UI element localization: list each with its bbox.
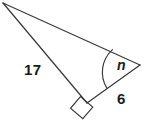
angle-label-n: n: [117, 58, 126, 72]
side-length-label-6: 6: [117, 91, 125, 106]
geometry-figure: 17 6 n: [0, 0, 148, 122]
side-length-label-17: 17: [24, 62, 41, 77]
triangle-drawing: [0, 0, 148, 122]
triangle-interior: [3, 3, 140, 103]
